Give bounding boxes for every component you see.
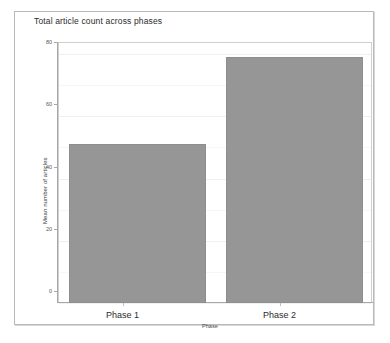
x-tick-label: Phase 1 [106, 310, 139, 320]
y-tick-label: 0 [49, 288, 52, 294]
y-tick-mark [54, 229, 57, 230]
y-tick-mark [54, 42, 57, 43]
x-tick-label: Phase 2 [263, 310, 296, 320]
chart-title: Total article count across phases [34, 16, 162, 26]
gridline [59, 54, 371, 55]
y-tick-mark [54, 104, 57, 105]
y-tick-label: 40 [46, 164, 52, 170]
y-tick-label: 20 [46, 226, 52, 232]
bar [226, 57, 363, 303]
y-tick-mark [54, 291, 57, 292]
bar [69, 144, 206, 303]
plot-area [58, 42, 372, 302]
y-tick-label: 80 [46, 39, 52, 45]
chart-outer-frame: Total article count across phases Phase … [14, 11, 374, 325]
x-tick-mark [280, 303, 281, 306]
y-tick-label: 60 [46, 101, 52, 107]
x-axis-title: Phase [15, 323, 390, 329]
chart-page: Total article count across phases Phase … [0, 0, 390, 343]
gridline [59, 303, 371, 304]
bottom-caption [0, 331, 390, 343]
x-tick-mark [123, 303, 124, 306]
y-tick-mark [54, 167, 57, 168]
